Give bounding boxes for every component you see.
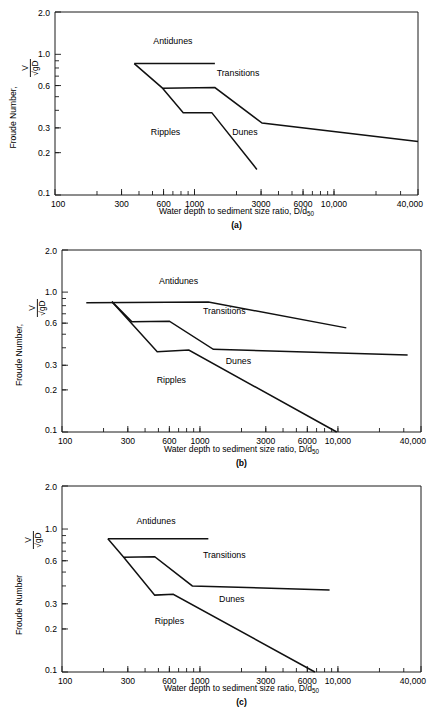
y-tick-label: 0.2 <box>38 148 50 158</box>
region-label-ripples: Ripples <box>155 616 185 626</box>
x-tick-label: 10,000 <box>325 436 352 446</box>
x-axis-title: Water depth to sediment size ratio, D/d5… <box>164 444 320 455</box>
plot-frame <box>62 250 421 432</box>
region-label-antidunes: Antidunes <box>136 516 176 526</box>
chart-panel-a: 10030060010003000600010,00040,0000.10.20… <box>0 0 436 236</box>
y-tick-label: 0.3 <box>45 360 57 370</box>
y-tick-label: 0.2 <box>45 385 57 395</box>
region-label-dunes: Dunes <box>232 127 258 137</box>
fraction-numerator: V <box>27 305 37 311</box>
boundary-curve-ripples-dunes-boundary <box>124 557 315 672</box>
panel-caption: (b) <box>236 458 247 468</box>
y-tick-label: 1.0 <box>38 49 50 59</box>
fraction-denominator: √gD <box>37 300 47 315</box>
y-tick-label: 0.3 <box>38 123 50 133</box>
region-label-transitions: Transitions <box>203 550 246 560</box>
x-tick-label: 300 <box>114 199 129 209</box>
y-tick-label: 0.6 <box>45 318 57 328</box>
panel-caption: (a) <box>231 220 242 230</box>
y-tick-label: 0.1 <box>45 665 57 675</box>
y-tick-label: 1.0 <box>45 524 57 534</box>
y-tick-label: 0.2 <box>45 624 57 634</box>
chart-panel-c: 10030060010003000600010,00040,0000.10.20… <box>0 472 436 712</box>
y-tick-label: 2.0 <box>45 246 57 256</box>
boundary-curve-transitions-dunes-boundary <box>108 539 330 590</box>
y-tick-label: 0.1 <box>38 188 50 198</box>
panel-caption: (c) <box>236 697 247 707</box>
fraction-denominator: √gD <box>33 532 43 547</box>
region-label-dunes: Dunes <box>219 594 245 604</box>
fraction-denominator: √gD <box>30 60 40 75</box>
y-axis-title: Froude Number <box>14 575 24 635</box>
x-tick-label: 40,000 <box>400 436 427 446</box>
chart-svg-b: 10030060010003000600010,00040,0000.10.20… <box>0 236 436 472</box>
region-label-transitions: Transitions <box>217 68 260 78</box>
region-label-antidunes: Antidunes <box>153 36 193 46</box>
y-tick-label: 0.3 <box>45 599 57 609</box>
region-label-antidunes: Antidunes <box>159 276 199 286</box>
x-tick-label: 300 <box>121 436 136 446</box>
y-tick-label: 2.0 <box>38 8 50 18</box>
fraction-numerator: V <box>23 537 33 543</box>
froude-number-fraction: V√gD <box>23 531 44 549</box>
plot-frame <box>62 486 421 672</box>
boundary-curve-transitions-dunes-boundary <box>112 302 408 355</box>
y-axis-title: Froude Number, <box>14 324 24 386</box>
y-axis-title: Froude Number, <box>8 86 18 148</box>
fraction-numerator: V <box>20 65 30 71</box>
x-axis-title: Water depth to sediment size ratio, D/d5… <box>164 683 320 694</box>
y-tick-label: 0.1 <box>45 425 57 435</box>
x-tick-label: 10,000 <box>321 199 348 209</box>
x-tick-label: 100 <box>58 436 73 446</box>
x-tick-label: 10,000 <box>325 676 352 686</box>
y-tick-label: 2.0 <box>45 482 57 492</box>
region-label-transitions: Transitions <box>203 306 246 316</box>
chart-panel-b: 10030060010003000600010,00040,0000.10.20… <box>0 236 436 472</box>
chart-svg-c: 10030060010003000600010,00040,0000.10.20… <box>0 472 436 712</box>
region-label-ripples: Ripples <box>151 127 181 137</box>
froude-number-fraction: V√gD <box>27 299 48 317</box>
x-tick-label: 40,000 <box>397 199 424 209</box>
y-tick-label: 1.0 <box>45 287 57 297</box>
y-tick-label: 0.6 <box>45 556 57 566</box>
y-tick-label: 0.6 <box>38 81 50 91</box>
chart-svg-a: 10030060010003000600010,00040,0000.10.20… <box>0 0 436 236</box>
froude-number-fraction: V√gD <box>20 59 41 77</box>
figure-page: 10030060010003000600010,00040,0000.10.20… <box>0 0 436 712</box>
region-label-ripples: Ripples <box>157 375 187 385</box>
x-tick-label: 40,000 <box>400 676 427 686</box>
region-label-dunes: Dunes <box>226 356 252 366</box>
x-tick-label: 300 <box>121 676 136 686</box>
x-tick-label: 100 <box>58 676 73 686</box>
x-axis-title: Water depth to sediment size ratio, D/d5… <box>159 206 315 217</box>
x-tick-label: 100 <box>51 199 66 209</box>
